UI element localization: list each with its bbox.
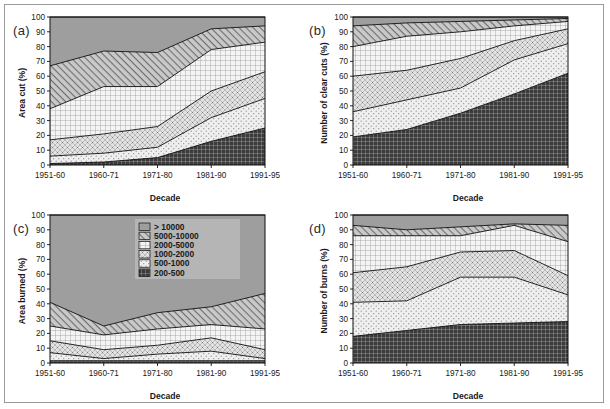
x-tick-label: 1951-60 [338, 369, 368, 378]
panel-c-tag: (c) [13, 221, 29, 236]
y-tick-label: 40 [36, 102, 46, 111]
y-tick-label: 70 [36, 57, 46, 66]
panel-b-ylabel: Number of clear cuts (%) [319, 42, 329, 143]
y-tick-label: 50 [36, 285, 46, 294]
y-tick-label: 20 [36, 131, 46, 140]
panel-c-ylabel: Area burned (%) [17, 258, 27, 325]
figure-frame: (a) [4, 4, 604, 403]
y-tick-label: 30 [339, 117, 349, 126]
panel-d: (d) [305, 205, 605, 405]
panel-b-chart: 01020304050607080901001951-601960-711971… [305, 5, 605, 207]
y-tick-label: 20 [339, 131, 349, 140]
x-tick-label: 1981-90 [499, 171, 529, 180]
y-tick-label: 100 [31, 211, 45, 220]
x-tick-label: 1991-95 [250, 171, 280, 180]
panel-a-tag: (a) [13, 23, 30, 38]
panel-b: (b) [305, 5, 605, 207]
y-tick-label: 80 [36, 43, 46, 52]
y-tick-label: 0 [40, 359, 45, 368]
panel-b-plot-area [353, 17, 568, 165]
legend-swatch-sparse-dot [139, 260, 150, 267]
x-tick-label: 1971-80 [445, 369, 475, 378]
y-tick-label: 40 [36, 300, 46, 309]
y-tick-label: 50 [36, 87, 46, 96]
x-tick-label: 1991-95 [250, 369, 280, 378]
x-tick-label: 1960-71 [89, 369, 119, 378]
y-tick-label: 70 [36, 255, 46, 264]
y-tick-label: 60 [339, 72, 349, 81]
y-tick-label: 50 [339, 285, 349, 294]
y-tick-label: 30 [36, 117, 46, 126]
y-tick-label: 100 [31, 13, 45, 22]
y-tick-label: 100 [334, 13, 348, 22]
panel-a-chart: 01020304050607080901001951-601960-711971… [5, 5, 305, 207]
x-tick-label: 1991-95 [553, 171, 583, 180]
panel-a-ylabel: Area cut (%) [17, 68, 27, 118]
x-tick-label: 1991-95 [553, 369, 583, 378]
y-tick-label: 30 [36, 315, 46, 324]
y-tick-label: 0 [343, 161, 348, 170]
y-tick-label: 100 [334, 211, 348, 220]
legend-swatch-diagonal-hatch [139, 232, 150, 239]
y-tick-label: 50 [339, 87, 349, 96]
x-tick-label: 1960-71 [89, 171, 119, 180]
x-tick-label: 1951-60 [35, 171, 65, 180]
legend-swatch-dark-grid [139, 269, 150, 276]
y-tick-label: 70 [339, 57, 349, 66]
panel-d-chart: 01020304050607080901001951-601960-711971… [305, 205, 605, 405]
panel-b-xlabel: Decade [453, 193, 484, 203]
y-tick-label: 30 [339, 315, 349, 324]
x-tick-label: 1951-60 [338, 171, 368, 180]
x-tick-label: 1981-90 [196, 171, 226, 180]
panel-c-chart: 01020304050607080901001951-601960-711971… [5, 205, 305, 405]
x-tick-label: 1981-90 [499, 369, 529, 378]
y-tick-label: 0 [40, 161, 45, 170]
y-tick-label: 20 [36, 329, 46, 338]
y-tick-label: 10 [339, 146, 349, 155]
panel-d-xlabel: Decade [453, 391, 484, 401]
y-tick-label: 40 [339, 102, 349, 111]
y-tick-label: 60 [339, 270, 349, 279]
x-tick-label: 1981-90 [196, 369, 226, 378]
panel-c: (c) [5, 205, 305, 405]
legend-swatch-grid-fine [139, 241, 150, 248]
y-tick-label: 60 [36, 72, 46, 81]
legend-label: 200-500 [154, 268, 185, 278]
y-tick-label: 90 [36, 28, 46, 37]
panel-d-plot-area [353, 215, 568, 363]
panel-d-tag: (d) [309, 221, 326, 236]
y-tick-label: 0 [343, 359, 348, 368]
x-tick-label: 1960-71 [392, 369, 422, 378]
panel-c-xlabel: Decade [150, 391, 181, 401]
y-tick-label: 10 [36, 146, 46, 155]
y-tick-label: 90 [36, 226, 46, 235]
panel-a-xlabel: Decade [150, 193, 181, 203]
y-tick-label: 10 [339, 344, 349, 353]
x-tick-label: 1951-60 [35, 369, 65, 378]
x-tick-label: 1971-80 [142, 171, 172, 180]
panel-a-plot-area [50, 17, 265, 165]
panel-b-tag: (b) [309, 23, 326, 38]
panel-d-ylabel: Number of burns (%) [319, 248, 329, 333]
legend: > 100005000-100002000-50001000-2000500-1… [135, 219, 240, 279]
y-tick-label: 40 [339, 300, 349, 309]
x-tick-label: 1960-71 [392, 171, 422, 180]
y-tick-label: 80 [339, 241, 349, 250]
y-tick-label: 10 [36, 344, 46, 353]
legend-swatch-cross-dot [139, 251, 150, 258]
x-tick-label: 1971-80 [445, 171, 475, 180]
x-tick-label: 1971-80 [142, 369, 172, 378]
y-tick-label: 90 [339, 226, 349, 235]
y-tick-label: 80 [36, 241, 46, 250]
y-tick-label: 90 [339, 28, 349, 37]
y-tick-label: 60 [36, 270, 46, 279]
y-tick-label: 70 [339, 255, 349, 264]
y-tick-label: 80 [339, 43, 349, 52]
panel-a: (a) [5, 5, 305, 207]
y-tick-label: 20 [339, 329, 349, 338]
legend-swatch-solid-gray [139, 223, 150, 230]
